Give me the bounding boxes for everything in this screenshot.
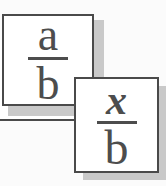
- numerator: a: [38, 17, 58, 53]
- numerator: x: [106, 83, 127, 117]
- fraction-x-over-b: x b: [97, 83, 137, 168]
- denominator: b: [37, 64, 60, 104]
- fraction-card-x-over-b[interactable]: x b: [74, 77, 159, 173]
- fraction-a-over-b: a b: [28, 17, 68, 104]
- denominator: b: [105, 128, 129, 168]
- fraction-cards-scene: a b x b: [0, 0, 166, 186]
